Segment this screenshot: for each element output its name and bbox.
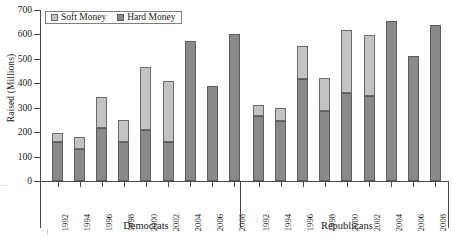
y-axis-tick-label: 300 — [0, 103, 32, 113]
x-axis-tick — [259, 182, 260, 187]
x-axis-tick — [80, 182, 81, 187]
group-label-republicans: Republicans — [213, 220, 453, 231]
campaign-finance-stacked-bar-chart: Raised (Millions) 0100200300400500600700… — [0, 0, 453, 237]
x-axis-tick — [391, 182, 392, 187]
x-axis-tick — [369, 182, 370, 187]
legend-label-hard-money: Hard Money — [127, 13, 175, 23]
bar-republicans-2002 — [364, 35, 375, 181]
bar-segment-soft-money — [275, 108, 286, 121]
plot-area — [40, 10, 448, 181]
bar-segment-hard-money — [408, 56, 419, 181]
bar-segment-soft-money — [364, 35, 375, 96]
x-axis-tick — [190, 182, 191, 187]
bar-segment-soft-money — [163, 81, 174, 142]
bar-segment-hard-money — [52, 142, 63, 181]
bar-republicans-2000 — [341, 30, 352, 181]
bar-segment-soft-money — [341, 30, 352, 93]
bar-segment-soft-money — [74, 137, 85, 149]
bar-republicans-2004 — [386, 21, 397, 181]
bar-segment-soft-money — [319, 78, 330, 111]
x-axis-tick — [146, 182, 147, 187]
x-axis-tick — [58, 182, 59, 187]
legend-item-hard-money: Hard Money — [117, 13, 175, 23]
x-axis-tick — [325, 182, 326, 187]
bar-segment-soft-money — [297, 46, 308, 79]
bar-segment-hard-money — [341, 93, 352, 181]
bar-segment-hard-money — [118, 142, 129, 181]
x-axis-tick — [435, 182, 436, 187]
bar-democrats-2002 — [163, 81, 174, 181]
x-axis-tick — [413, 182, 414, 187]
bar-segment-soft-money — [96, 97, 107, 128]
soft-money-swatch — [51, 14, 58, 21]
bar-democrats-2000 — [140, 67, 151, 181]
bar-segment-hard-money — [74, 149, 85, 181]
bar-segment-hard-money — [229, 34, 240, 181]
bar-segment-soft-money — [118, 120, 129, 143]
chart-legend: Soft Money Hard Money — [45, 11, 182, 24]
x-axis-tick — [234, 182, 235, 187]
y-axis-tick-label: 200 — [0, 127, 32, 137]
y-axis-tick-label: 400 — [0, 78, 32, 88]
bar-segment-hard-money — [163, 142, 174, 181]
x-axis-tick — [102, 182, 103, 187]
x-axis-tick — [168, 182, 169, 187]
y-axis-tick-label: 600 — [0, 29, 32, 39]
hard-money-swatch — [117, 14, 124, 21]
bar-democrats-1998 — [118, 120, 129, 181]
bar-republicans-1996 — [297, 46, 308, 181]
bar-democrats-1994 — [74, 137, 85, 181]
bar-republicans-1994 — [275, 108, 286, 181]
bar-segment-hard-money — [275, 121, 286, 181]
bar-republicans-1992 — [253, 105, 264, 181]
y-axis-tick-label: 500 — [0, 54, 32, 64]
bar-segment-hard-money — [297, 79, 308, 181]
bar-segment-hard-money — [319, 111, 330, 181]
bar-democrats-2006 — [207, 86, 218, 181]
x-axis-tick — [212, 182, 213, 187]
y-axis-tick-label: 700 — [0, 5, 32, 15]
bar-democrats-1992 — [52, 133, 63, 181]
legend-item-soft-money: Soft Money — [51, 13, 106, 23]
scan-artifact — [1, 185, 6, 186]
bar-democrats-2008 — [229, 34, 240, 181]
bar-segment-soft-money — [140, 67, 151, 130]
bar-segment-hard-money — [140, 130, 151, 181]
bar-segment-hard-money — [185, 41, 196, 181]
y-axis-tick-label: 100 — [0, 152, 32, 162]
bar-segment-soft-money — [253, 105, 264, 116]
bar-republicans-1998 — [319, 78, 330, 181]
bar-republicans-2006 — [408, 56, 419, 181]
bar-segment-hard-money — [207, 86, 218, 181]
bar-democrats-1996 — [96, 97, 107, 181]
bar-segment-hard-money — [364, 96, 375, 181]
x-axis-tick — [303, 182, 304, 187]
bar-segment-hard-money — [386, 21, 397, 181]
bar-republicans-2008 — [430, 25, 441, 181]
legend-label-soft-money: Soft Money — [61, 13, 106, 23]
scan-artifact — [47, 229, 48, 234]
x-axis-tick — [281, 182, 282, 187]
x-axis-tick — [347, 182, 348, 187]
bar-segment-soft-money — [52, 133, 63, 142]
bar-segment-hard-money — [96, 128, 107, 181]
bar-segment-hard-money — [430, 25, 441, 181]
bar-segment-hard-money — [253, 116, 264, 181]
x-axis-tick — [124, 182, 125, 187]
bar-democrats-2004 — [185, 41, 196, 181]
